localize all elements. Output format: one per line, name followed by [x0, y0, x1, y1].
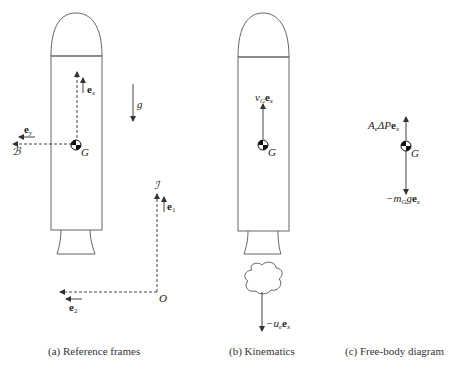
caption-a: (a) Reference frames [48, 345, 140, 357]
label-G: G [411, 148, 419, 159]
label-ey: ey [24, 124, 32, 137]
label-e2: e2 [69, 302, 77, 315]
label-inertial-frame: ℐ [154, 180, 159, 191]
center-of-gravity-icon [401, 141, 411, 151]
label-body-frame: ℬ [12, 146, 21, 157]
label-velocity: vGex [255, 92, 273, 105]
label-e1: e1 [167, 201, 175, 214]
center-of-gravity-icon [258, 140, 268, 150]
label-G: G [268, 147, 276, 158]
label-origin: O [159, 293, 167, 304]
center-of-gravity-icon [71, 140, 81, 150]
caption-b: (b) Kinematics [229, 345, 295, 357]
label-exhaust-velocity: −ueex [266, 318, 290, 331]
label-thrust: AeΔPex [368, 120, 399, 133]
exhaust-cloud-icon [245, 262, 282, 294]
label-g: g [137, 99, 143, 110]
label-ex: ex [87, 84, 95, 97]
label-weight: −mGgex [386, 193, 420, 206]
diagram-canvas [0, 0, 456, 371]
caption-c: (c) Free-body diagram [345, 345, 444, 357]
inertial-frame-axes [60, 194, 164, 299]
rocket-a [51, 13, 102, 254]
label-G: G [81, 147, 89, 158]
